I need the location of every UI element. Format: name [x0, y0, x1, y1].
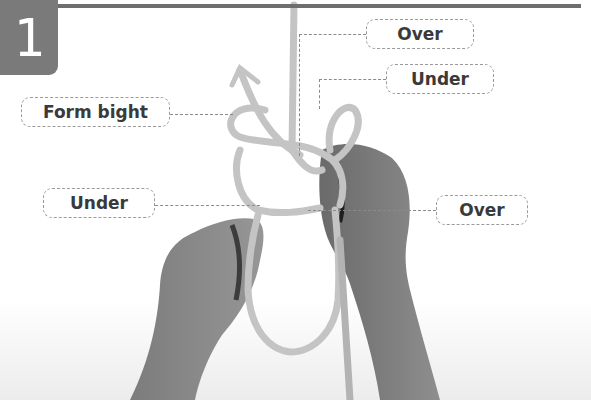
- step-number: 1: [0, 8, 58, 68]
- leader-under-left: [155, 205, 260, 206]
- step-badge: 1: [0, 0, 58, 75]
- leader-over-right: [308, 210, 436, 211]
- leader-under-top-vertical: [319, 79, 320, 109]
- leader-under-top: [319, 79, 386, 80]
- leader-form-bight: [170, 114, 233, 115]
- leader-over-top-vertical: [299, 34, 300, 156]
- top-rule: [55, 4, 581, 8]
- label-under-left: Under: [43, 188, 155, 218]
- label-form-bight: Form bight: [21, 97, 170, 127]
- label-over-top: Over: [366, 19, 474, 49]
- knot-step-illustration: 1 Over Under Form bight Under Over: [0, 0, 591, 416]
- label-under-top: Under: [386, 64, 494, 94]
- leader-over-top: [299, 34, 366, 35]
- label-over-right: Over: [436, 195, 528, 225]
